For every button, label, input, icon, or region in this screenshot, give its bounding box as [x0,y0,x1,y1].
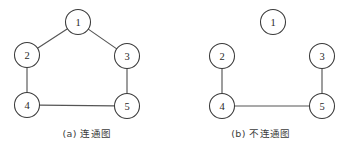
graph-edge [39,105,114,106]
graph-node: 5 [310,94,335,119]
panel-connected-graph: 12345 (a) 连通图 [0,0,174,148]
node-label: 2 [24,50,29,61]
node-label: 1 [75,17,80,28]
connected-graph-diagram: 12345 [0,0,174,124]
node-label: 3 [124,51,129,62]
node-label: 4 [219,101,225,112]
graph-node: 4 [210,94,235,119]
node-label: 5 [319,101,324,112]
graph-node: 4 [15,93,40,118]
graph-node: 2 [15,43,40,68]
panel-disconnected-graph: 12345 (b) 不连通图 [174,0,348,148]
graph-figure: 12345 (a) 连通图 12345 (b) 不连通图 [0,0,348,148]
node-label: 4 [24,100,30,111]
graph-node: 3 [310,44,335,69]
graph-node: 5 [115,94,140,119]
caption-disconnected-graph: (b) 不连通图 [174,126,348,140]
graph-node: 1 [66,10,91,35]
node-label: 3 [319,51,324,62]
graph-edge [37,29,67,48]
node-label: 1 [270,17,275,28]
graph-node: 2 [210,44,235,69]
graph-node: 1 [261,10,286,35]
node-label: 5 [124,101,129,112]
caption-connected-graph: (a) 连通图 [0,126,174,140]
graph-edge [88,29,116,49]
graph-node: 3 [115,44,140,69]
disconnected-graph-diagram: 12345 [174,0,348,124]
node-label: 2 [219,51,224,62]
